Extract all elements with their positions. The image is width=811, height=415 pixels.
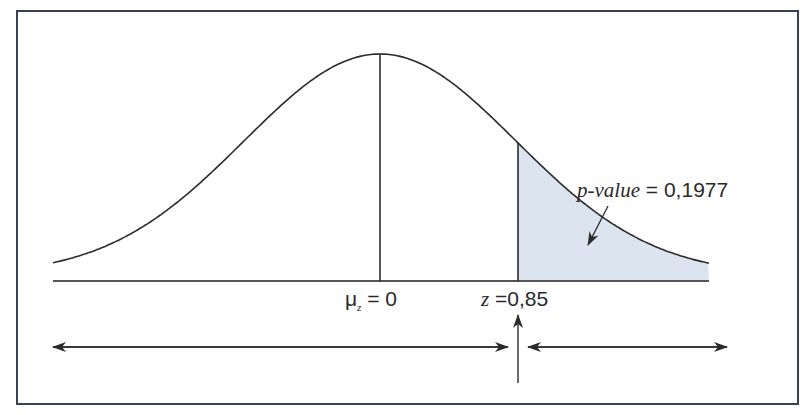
p-value-number: 0,1977 xyxy=(664,178,728,201)
normal-curve-diagram xyxy=(0,0,811,415)
equals-sign: = xyxy=(646,178,658,201)
p-value-name: p-value xyxy=(577,178,640,202)
z-symbol: z xyxy=(481,287,489,311)
equals-sign: = xyxy=(495,287,507,310)
p-value-label: p-value = 0,1977 xyxy=(577,178,728,203)
frame-border xyxy=(17,11,798,404)
equals-sign: = xyxy=(367,287,379,310)
mu-symbol: μ xyxy=(345,287,357,310)
mean-value: 0 xyxy=(385,287,397,310)
mu-subscript: z xyxy=(357,301,361,313)
z-value: 0,85 xyxy=(507,287,548,310)
z-stat-label: z =0,85 xyxy=(481,287,548,312)
mean-label: μz = 0 xyxy=(345,287,397,313)
p-value-shaded-area xyxy=(518,143,709,281)
